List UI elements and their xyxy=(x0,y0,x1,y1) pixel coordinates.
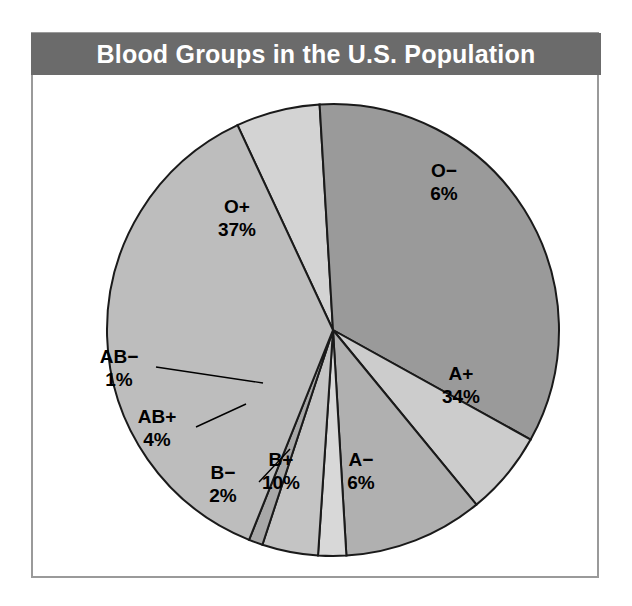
label-a-plus-name: A+ xyxy=(449,363,474,384)
label-o-plus-pct: 37% xyxy=(218,219,256,240)
label-ab-plus-name: AB+ xyxy=(138,406,177,427)
pie-slices xyxy=(107,104,559,556)
label-ab-minus-name: AB− xyxy=(100,346,139,367)
figure-canvas: Blood Groups in the U.S. Population O+ 3… xyxy=(0,0,632,606)
label-a-plus-pct: 34% xyxy=(442,386,480,407)
label-b-plus-name: B+ xyxy=(269,449,294,470)
label-ab-plus-pct: 4% xyxy=(143,429,171,450)
label-o-plus-name: O+ xyxy=(224,196,250,217)
label-a-minus-pct: 6% xyxy=(347,472,375,493)
label-b-minus-name: B− xyxy=(211,462,236,483)
label-ab-minus-pct: 1% xyxy=(105,369,133,390)
label-b-minus-pct: 2% xyxy=(209,485,237,506)
label-b-plus-pct: 10% xyxy=(262,472,300,493)
label-a-minus-name: A− xyxy=(349,449,374,470)
pie-chart: O+ 37% O− 6% A+ 34% A− 6% B+ 10% AB− 1% … xyxy=(31,32,599,578)
label-o-minus-name: O− xyxy=(431,160,457,181)
label-o-minus-pct: 6% xyxy=(430,183,458,204)
